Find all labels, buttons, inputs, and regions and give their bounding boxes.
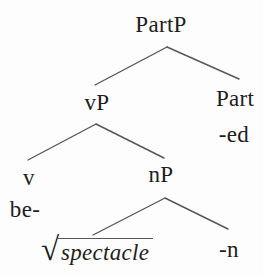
edge-partp-vp: [95, 47, 167, 85]
node-vp-label: vP: [85, 89, 110, 116]
node-partp-label: PartP: [135, 11, 186, 38]
edge-np-root: [93, 198, 165, 235]
node-v-label: v: [23, 164, 35, 191]
edge-vp-v: [28, 124, 96, 160]
root-morpheme-label: spectacle: [58, 238, 153, 265]
node-v-prefix-be: be-: [10, 196, 40, 223]
edge-vp-np: [96, 124, 164, 158]
node-part-label: Part: [216, 85, 254, 112]
node-n-suffix: -n: [219, 236, 239, 263]
node-part-suffix-ed: -ed: [219, 121, 249, 148]
edge-np-n: [165, 198, 228, 229]
edge-partp-part: [167, 47, 239, 79]
node-root-spectacle: √ spectacle: [41, 238, 153, 268]
node-np-label: nP: [149, 161, 174, 188]
syntax-tree-figure: PartP vP Part -ed v nP be- √ spectacle -…: [0, 0, 263, 275]
radical-sign-icon: √: [41, 234, 59, 264]
